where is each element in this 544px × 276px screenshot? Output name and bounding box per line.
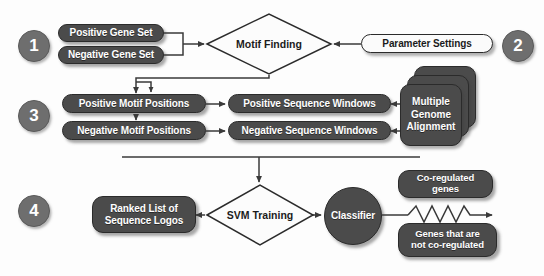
ranked-list-line-2: Sequence Logos — [105, 215, 184, 226]
node-positive-motif-positions[interactable]: Positive Motif Positions — [62, 94, 206, 113]
node-negative-motif-positions[interactable]: Negative Motif Positions — [62, 121, 206, 140]
step-badge-4: 4 — [18, 195, 50, 227]
step-badge-2: 2 — [502, 30, 534, 62]
node-svm-training[interactable]: SVM Training — [204, 183, 316, 247]
genome-alignment-line-3: Alignment — [407, 121, 456, 134]
node-positive-sequence-windows[interactable]: Positive Sequence Windows — [228, 94, 391, 113]
not-co-regulated-line-2: not co-regulated — [411, 240, 484, 251]
step-badge-3: 3 — [18, 100, 50, 132]
node-classifier[interactable]: Classifier — [324, 187, 382, 245]
node-negative-gene-set[interactable]: Negative Gene Set — [58, 46, 164, 64]
wire-positive-gene-to-motif — [164, 33, 183, 44]
wire-motif-to-bus — [136, 75, 269, 86]
node-co-regulated-genes[interactable]: Co-regulated genes — [398, 170, 493, 198]
genome-alignment-line-1: Multiple — [412, 96, 450, 109]
node-motif-finding[interactable]: Motif Finding — [204, 12, 334, 76]
wire-bus-secondary — [136, 82, 151, 92]
wire-zigzag-output — [408, 206, 492, 222]
node-positive-gene-set[interactable]: Positive Gene Set — [58, 24, 164, 42]
wire-negative-gene-to-motif — [164, 44, 183, 55]
node-negative-sequence-windows[interactable]: Negative Sequence Windows — [228, 121, 391, 140]
genome-alignment-card-front: Multiple Genome Alignment — [400, 84, 462, 146]
node-ranked-list-sequence-logos[interactable]: Ranked List of Sequence Logos — [92, 196, 196, 233]
node-not-co-regulated-genes[interactable]: Genes that are not co-regulated — [398, 223, 497, 257]
workflow-diagram: 1 2 3 4 Positive Gene Set Negative Gene … — [0, 0, 544, 276]
step-badge-1: 1 — [18, 30, 50, 62]
genome-alignment-line-2: Genome — [411, 109, 451, 122]
node-multiple-genome-alignment[interactable]: Multiple Genome Alignment — [400, 66, 476, 148]
co-regulated-line-2: genes — [432, 184, 459, 195]
node-parameter-settings[interactable]: Parameter Settings — [361, 34, 493, 53]
ranked-list-line-1: Ranked List of — [110, 203, 178, 214]
